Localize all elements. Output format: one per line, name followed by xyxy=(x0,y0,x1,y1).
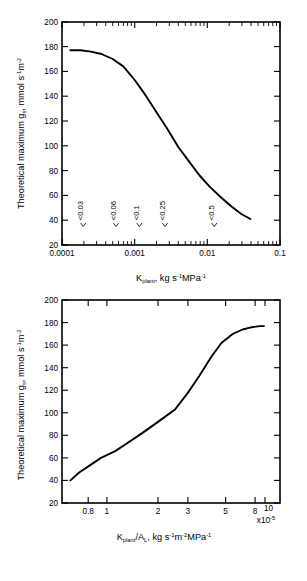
x-tick-label: 0.0001 xyxy=(49,249,74,258)
y-tick-label: 60 xyxy=(49,454,59,463)
y-tick-label: 80 xyxy=(49,167,59,176)
chart-panel-top: 20 40 60 80 100 120 140 160 180 xyxy=(0,0,307,290)
y-tick-label: 100 xyxy=(44,409,58,418)
curve-annotations-top: <0.03 <0.06 <0.1 <0.25 <0.5 xyxy=(76,201,217,227)
y-tick-label: 200 xyxy=(44,296,58,305)
y-axis-label-bottom: Theoretical maximum gs, mmol s-1m-2 xyxy=(16,329,27,480)
y-tick-label: 100 xyxy=(44,142,58,151)
y-tick-label: 180 xyxy=(44,43,58,52)
annotation-label: <0.1 xyxy=(132,205,141,220)
annotation-label: <0.25 xyxy=(158,201,167,220)
x-axis-multiplier: x10-5 xyxy=(257,515,275,526)
plot-frame-bottom xyxy=(62,300,280,503)
x-tick-label: 0.8 xyxy=(83,507,95,516)
x-axis-label-bottom: Kplant/AL, kg s-1m-2MPa-1 xyxy=(117,532,212,543)
x-tick-label: 1 xyxy=(105,507,110,516)
x-axis-ticks-bottom: 0.8 1 2 3 5 8 10 xyxy=(83,300,274,516)
y-tick-label: 80 xyxy=(49,431,59,440)
x-tick-label: 2 xyxy=(156,507,161,516)
x-tick-label: 0.01 xyxy=(199,249,215,258)
y-tick-label: 20 xyxy=(49,499,59,508)
y-tick-label: 160 xyxy=(44,341,58,350)
x-axis-label-top: Kplant, kg s-1MPa-1 xyxy=(136,273,206,284)
bottom-chart-svg: 20 40 60 80 100 120 140 160 180 xyxy=(0,290,307,581)
chart-panel-bottom: 20 40 60 80 100 120 140 160 180 xyxy=(0,290,307,581)
y-tick-label: 120 xyxy=(44,117,58,126)
data-curve-bottom xyxy=(70,326,264,480)
y-tick-label: 200 xyxy=(44,18,58,27)
x-tick-label: 0.1 xyxy=(274,249,286,258)
y-tick-label: 140 xyxy=(44,92,58,101)
y-tick-label: 160 xyxy=(44,67,58,76)
x-tick-label: 8 xyxy=(253,507,258,516)
x-tick-label: 5 xyxy=(223,507,228,516)
y-tick-label: 120 xyxy=(44,386,58,395)
y-tick-label: 140 xyxy=(44,364,58,373)
x-tick-label: 3 xyxy=(186,507,191,516)
y-tick-label: 40 xyxy=(49,216,59,225)
annotation-label: <0.5 xyxy=(207,205,216,220)
annotation-label: <0.03 xyxy=(76,201,85,220)
top-chart-svg: 20 40 60 80 100 120 140 160 180 xyxy=(0,0,307,290)
x-tick-label: 10 xyxy=(264,504,274,513)
y-tick-label: 40 xyxy=(49,476,59,485)
y-tick-label: 180 xyxy=(44,319,58,328)
x-tick-label: 0.001 xyxy=(124,249,145,258)
annotation-label: <0.06 xyxy=(109,201,118,220)
annotation-arrows-top xyxy=(81,223,217,227)
x-axis-ticks-top: 0.0001 0.001 0.01 0.1 xyxy=(49,22,286,258)
y-tick-label: 60 xyxy=(49,191,59,200)
y-axis-label-top: Theoretical maximum gs, mmol s-1m-2 xyxy=(16,58,27,209)
y-axis-ticks-bottom: 20 40 60 80 100 120 140 160 180 xyxy=(44,296,280,508)
data-curve-top xyxy=(70,50,250,219)
